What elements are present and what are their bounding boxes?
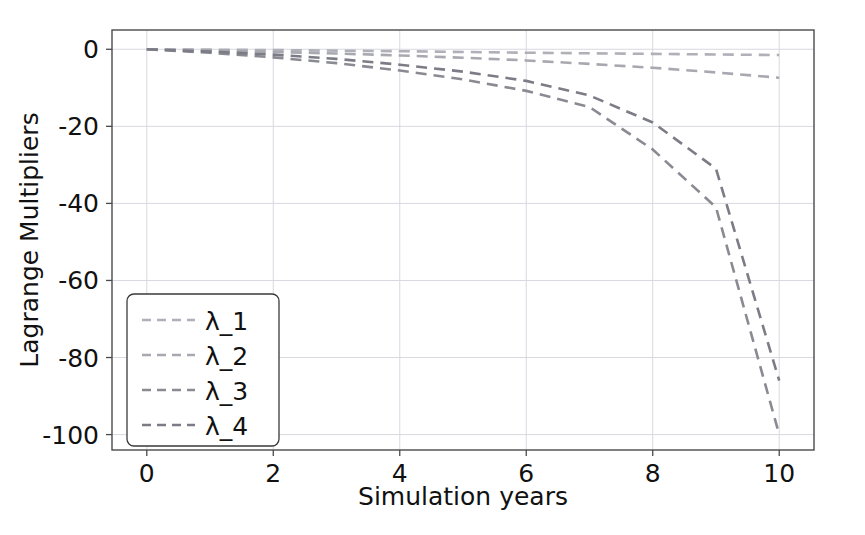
legend-label-4: λ_4 (205, 412, 248, 441)
x-tick-label: 0 (139, 459, 155, 488)
legend-label-1: λ_1 (205, 307, 248, 336)
y-tick-label: -100 (42, 421, 99, 450)
x-axis-title: Simulation years (358, 482, 568, 511)
y-axis-title: Lagrange Multipliers (15, 112, 44, 367)
line-chart: 0246810 0-20-40-60-80-100 Simulation yea… (0, 0, 865, 535)
y-tick-label: -40 (58, 189, 99, 218)
chart-figure: 0246810 0-20-40-60-80-100 Simulation yea… (0, 0, 865, 535)
chart-legend: λ_1λ_2λ_3λ_4 (127, 294, 279, 446)
legend-label-3: λ_3 (205, 377, 248, 406)
y-tick-label: -80 (58, 344, 99, 373)
legend-label-2: λ_2 (205, 342, 248, 371)
y-tick-label: 0 (83, 35, 99, 64)
x-tick-label: 8 (645, 459, 661, 488)
y-tick-label: -20 (58, 112, 99, 141)
x-tick-label: 10 (763, 459, 795, 488)
legend-box (127, 294, 279, 446)
y-tick-label: -60 (58, 266, 99, 295)
x-tick-label: 2 (265, 459, 281, 488)
